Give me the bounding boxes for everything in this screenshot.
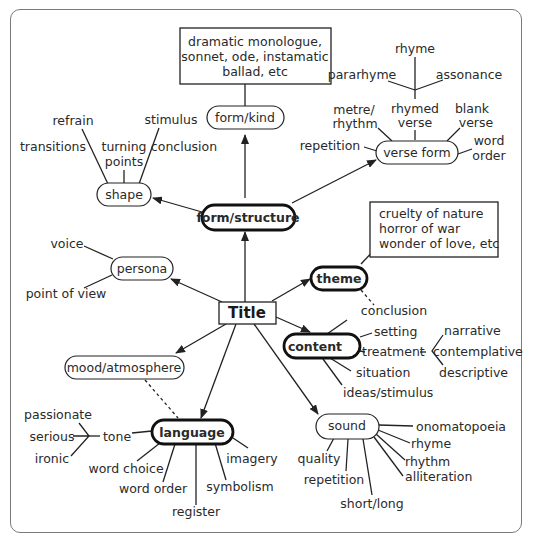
line-verse-form-word-order (458, 149, 472, 154)
line-sound-short-long (363, 439, 372, 495)
line-content-conclusion (327, 320, 347, 334)
verse-rhythm: rhythm (332, 116, 377, 131)
verse-rhymed-verse: verse (398, 115, 433, 130)
language-imagery: imagery (226, 451, 278, 466)
sound-repetition: repetition (304, 472, 365, 487)
node-form-structure-label: form/structure (196, 210, 299, 225)
content-conclusion: conclusion (361, 303, 427, 318)
content-treatment: treatment (362, 344, 425, 359)
shape-branch-turning: turning (102, 139, 147, 154)
dashed-mood-language-link (145, 380, 178, 418)
node-persona-label: persona (117, 261, 168, 276)
shape-branch-stimulus: stimulus (145, 112, 198, 127)
node-verse-form-label: verse form (383, 145, 451, 160)
verse-blank: blank (455, 101, 490, 116)
content-setting: setting (374, 324, 417, 339)
language-word-choice: word choice (88, 461, 163, 476)
line-language-imagery (233, 438, 248, 448)
language-register: register (172, 504, 221, 519)
line-content-setting (360, 333, 372, 337)
verse-pararhyme: pararhyme (328, 67, 397, 82)
node-content-label: content (288, 339, 342, 354)
arrow-title-to-theme (272, 279, 310, 301)
verse-word: word (474, 133, 505, 148)
sound-quality: quality (298, 451, 341, 466)
line-sound-quality (327, 438, 334, 451)
sound-onomatopoeia: onomatopoeia (416, 419, 506, 434)
theme-example-line-1: cruelty of nature (379, 206, 484, 221)
node-language-label: language (159, 425, 224, 440)
verse-rhymed: rhymed (391, 101, 439, 116)
sound-alliteration: alliteration (405, 469, 472, 484)
line-content-situation (330, 358, 351, 371)
sound-rhyme: rhyme (411, 436, 451, 451)
line-verse-form-metre (378, 128, 392, 141)
verse-rhyme: rhyme (395, 41, 435, 56)
line-sound-repetition (346, 439, 348, 471)
line-rhymed-pararhyme (388, 81, 415, 90)
tone-passionate: passionate (24, 407, 92, 422)
arrow-title-to-language (201, 324, 236, 418)
tone-serious: serious (30, 429, 75, 444)
node-shape-label: shape (105, 187, 143, 202)
shape-branch-transitions: transitions (20, 139, 86, 154)
arrow-title-to-persona (171, 279, 222, 302)
node-sound-label: sound (328, 418, 366, 433)
verse-blank-verse: verse (459, 115, 494, 130)
content-situation: situation (356, 365, 410, 380)
line-language-word-order (163, 444, 175, 482)
arrow-title-to-mood (176, 324, 226, 353)
line-sound-rhythm (376, 434, 405, 460)
persona-point-of-view: point of view (26, 286, 107, 301)
language-tone: tone (103, 429, 131, 444)
persona-voice: voice (50, 236, 83, 251)
verse-order: order (472, 148, 506, 163)
shape-branch-points: points (105, 154, 143, 169)
shape-branch-refrain: refrain (52, 113, 93, 128)
form-kind-example-line-1: dramatic monologue, (188, 34, 322, 49)
arrow-form-structure-to-verse-form (292, 160, 376, 203)
form-kind-example-line-2: sonnet, ode, instamatic (181, 49, 328, 64)
line-sound-onomatopoeia (379, 425, 413, 426)
language-word-order: word order (119, 481, 188, 496)
language-symbolism: symbolism (206, 479, 273, 494)
line-language-tone (132, 431, 152, 433)
arrow-title-to-content (276, 317, 310, 332)
line-persona-voice (84, 246, 113, 259)
content-ideas-stimulus: ideas/stimulus (343, 385, 433, 400)
treatment-narrative: narrative (444, 323, 501, 338)
treatment-contemplative: contemplative (433, 344, 523, 359)
line-verse-form-repetition (364, 147, 377, 151)
node-form-kind-label: form/kind (215, 110, 275, 125)
sound-rhythm: rhythm (405, 454, 450, 469)
shape-branch-conclusion: conclusion (151, 139, 217, 154)
mind-map-canvas: dramatic monologue, sonnet, ode, instama… (0, 0, 534, 540)
node-title-label: Title (228, 304, 266, 322)
sound-short-long: short/long (340, 496, 403, 511)
treatment-descriptive: descriptive (439, 365, 508, 380)
tone-ironic: ironic (35, 451, 69, 466)
line-sound-rhyme (378, 430, 410, 443)
line-language-symbolism (215, 443, 226, 480)
node-mood-atmosphere-label: mood/atmosphere (67, 360, 182, 375)
form-kind-example-line-3: ballad, etc (222, 64, 288, 79)
arrow-form-structure-to-shape (153, 198, 202, 212)
verse-assonance: assonance (436, 67, 503, 82)
node-theme-label: theme (317, 271, 362, 286)
verse-repetition: repetition (300, 138, 361, 153)
line-sound-alliteration (374, 437, 403, 476)
theme-example-line-2: horror of war (379, 221, 461, 236)
verse-metre: metre/ (333, 102, 375, 117)
line-language-word-choice (137, 443, 160, 461)
theme-example-line-3: wonder of love, etc (379, 236, 499, 251)
